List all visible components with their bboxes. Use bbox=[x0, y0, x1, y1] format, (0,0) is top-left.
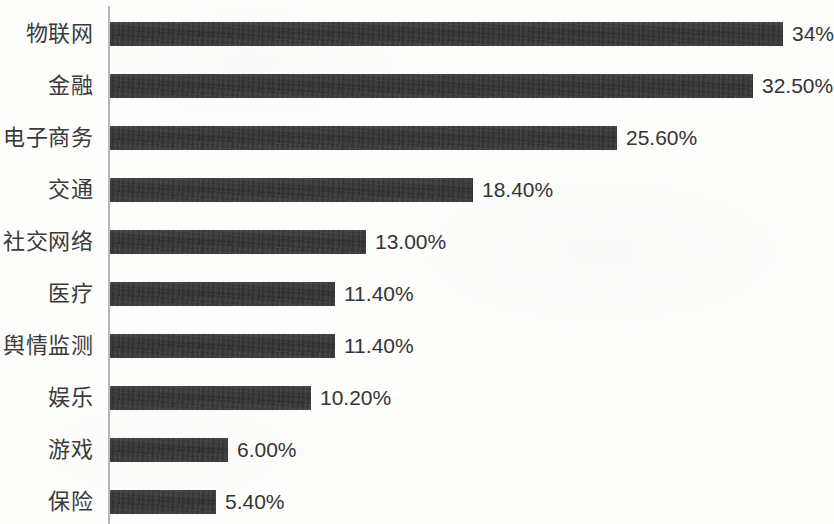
bar-wrapper: 13.00% bbox=[110, 230, 366, 254]
bar bbox=[110, 334, 335, 358]
bar-value-label: 34% bbox=[792, 22, 834, 46]
chart-row: 游戏 6.00% bbox=[0, 438, 834, 462]
category-label: 娱乐 bbox=[48, 386, 93, 410]
bar bbox=[110, 178, 473, 202]
bar bbox=[110, 438, 228, 462]
bar bbox=[110, 126, 617, 150]
category-label: 交通 bbox=[48, 178, 93, 202]
chart-row: 金融 32.50% bbox=[0, 74, 834, 98]
category-label: 金融 bbox=[48, 74, 93, 98]
bar-chart: 物联网 34% 金融 32.50% 电子商务 25.60% 交通 18.40% … bbox=[0, 0, 834, 524]
bar bbox=[110, 490, 216, 514]
bar-wrapper: 6.00% bbox=[110, 438, 228, 462]
category-label: 保险 bbox=[48, 490, 93, 514]
chart-row: 医疗 11.40% bbox=[0, 282, 834, 306]
category-label: 电子商务 bbox=[3, 126, 93, 150]
bar-value-label: 25.60% bbox=[626, 126, 697, 150]
bar bbox=[110, 282, 335, 306]
chart-row: 社交网络 13.00% bbox=[0, 230, 834, 254]
bar-value-label: 11.40% bbox=[344, 282, 414, 306]
chart-row: 交通 18.40% bbox=[0, 178, 834, 202]
chart-row: 保险 5.40% bbox=[0, 490, 834, 514]
category-label: 舆情监测 bbox=[3, 334, 93, 358]
bar-value-label: 10.20% bbox=[320, 386, 391, 410]
bar-value-label: 11.40% bbox=[344, 334, 414, 358]
bar-value-label: 6.00% bbox=[237, 438, 297, 462]
chart-row: 电子商务 25.60% bbox=[0, 126, 834, 150]
category-label: 医疗 bbox=[48, 282, 93, 306]
bar-wrapper: 32.50% bbox=[110, 74, 753, 98]
bar-value-label: 5.40% bbox=[225, 490, 285, 514]
bar-wrapper: 11.40% bbox=[110, 334, 335, 358]
chart-row: 娱乐 10.20% bbox=[0, 386, 834, 410]
bar-value-label: 32.50% bbox=[762, 74, 833, 98]
chart-row: 舆情监测 11.40% bbox=[0, 334, 834, 358]
chart-row: 物联网 34% bbox=[0, 22, 834, 46]
bar-wrapper: 10.20% bbox=[110, 386, 311, 410]
bar-value-label: 13.00% bbox=[375, 230, 446, 254]
bar-wrapper: 18.40% bbox=[110, 178, 473, 202]
bar bbox=[110, 22, 783, 46]
bar-value-label: 18.40% bbox=[482, 178, 553, 202]
category-label: 游戏 bbox=[48, 438, 93, 462]
bar-wrapper: 25.60% bbox=[110, 126, 617, 150]
bar bbox=[110, 230, 366, 254]
bar bbox=[110, 74, 753, 98]
category-label: 物联网 bbox=[26, 22, 94, 46]
bar-wrapper: 5.40% bbox=[110, 490, 216, 514]
category-label: 社交网络 bbox=[3, 230, 93, 254]
bar bbox=[110, 386, 311, 410]
bar-wrapper: 11.40% bbox=[110, 282, 335, 306]
bar-wrapper: 34% bbox=[110, 22, 783, 46]
